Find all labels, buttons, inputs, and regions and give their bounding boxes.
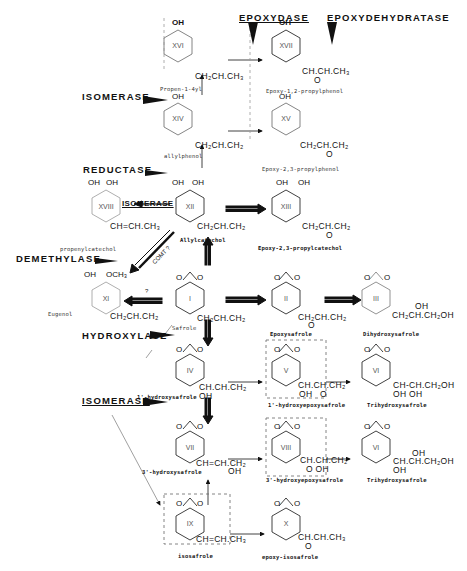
xviii-oh-2: OH [106,178,118,187]
v-oh: OH [299,390,312,399]
xvii-oh: OH [279,18,291,27]
vi-top-o-2: O [384,345,390,354]
ii-chain: CH₂CH.CH₂ [298,313,347,322]
xiii-oh-1: OH [276,178,288,187]
ix-chain: CH=CH.CH₃ [196,535,246,544]
xiv-oh: OH [172,92,184,101]
x-name: epoxy-isosafrole [262,554,318,560]
vii-name: 3'-hydroxysafrole [142,469,202,475]
xiv-chain: CH₂CH.CH₂ [195,141,244,150]
iii-chain: CH₂CH.CH₂OH [392,311,454,320]
xiv-name: allylphenol [164,153,203,159]
xviii-chain: CH=CH.CH₃ [110,222,160,231]
viii-o-1: O [274,422,280,431]
ii-name: Epoxysafrole [270,331,312,337]
v-o-2: O [294,345,300,354]
xi-label: XI [94,295,118,302]
enzyme-reductase: REDUCTASE [83,164,152,175]
vi-bottom-o-2: O [384,422,390,431]
xviii-oh-1: OH [88,178,100,187]
xii-chain: CH₂CH.CH₂ [197,222,246,231]
i-label: I [178,295,202,302]
v-epoxide: O [320,390,327,399]
xv-name: Epoxy-2,3-propylphenol [262,166,339,172]
v-o-1: O [274,345,280,354]
enzyme-isomerase-top: ISOMERASE [82,91,150,102]
xi-chain: CH₂CH.CH₂ [110,312,159,321]
xi-och3: OCH₃ [106,270,127,279]
xviii-label: XVIII [94,203,118,210]
v-name: 1'-hydroxyepoxysafrole [268,402,345,408]
viii-o-2: O [294,422,300,431]
xvi-oh: OH [172,18,184,27]
xiii-epoxide: O [326,231,333,240]
iii-label: III [364,295,388,302]
iii-o-1: O [364,273,370,282]
ix-o-2: O [197,499,203,508]
vii-o-1: O [176,422,182,431]
iii-name: Dihydroxysafrole [363,331,419,337]
xvii-chain: CH.CH.CH₃ [302,67,350,76]
i-name: Safrole [172,325,197,331]
i-chain: CH₂CH.CH₂ [197,314,246,323]
vii-oh: OH [228,467,241,476]
ii-o-2: O [294,273,300,282]
x-o-1: O [274,499,280,508]
xi-name: Eugenol [48,311,73,317]
xv-oh: OH [279,92,291,101]
xv-label: XV [274,115,298,122]
iv-oh: OH [199,392,212,401]
iii-o-2: O [384,273,390,282]
xii-label: XII [178,203,202,210]
enzyme-epoxydase: EPOXYDASE [239,12,309,23]
vi-bottom-oh: OH [393,466,406,475]
vi-top-oh: OH OH [393,390,422,399]
xi-oh: OH [84,270,96,279]
ix-label: IX [178,520,202,527]
enzyme-hydroxylase: HYDROXYLASE [82,330,168,341]
enzyme-demethylase: DEMETHYLASE [16,253,101,264]
xviii-name: propenylcatechol [60,246,116,252]
ii-o-1: O [274,273,280,282]
xvii-epoxide: O [314,76,321,85]
vi-bottom-name: Trihydroxysafrole [367,477,427,483]
viii-oh: O OH [306,465,329,474]
ii-epoxide: O [308,321,315,330]
xiii-oh-2: OH [298,178,310,187]
xiv-label: XIV [166,115,190,122]
vi-top-o-1: O [364,345,370,354]
viii-label: VIII [274,444,298,451]
x-o-2: O [294,499,300,508]
xii-oh-1: OH [172,178,184,187]
viii-name: 3'-hydroxyepoxysafrole [266,477,343,483]
x-epoxide: O [305,542,312,551]
i-o-1: O [176,273,182,282]
iv-o-2: O [197,345,203,354]
enzyme-isomerase-mid: ISOMERASE [122,199,174,208]
pathway-diagram-lines [0,0,467,571]
iv-label: IV [178,367,202,374]
vii-label: VII [178,444,202,451]
xvii-label: XVII [274,42,298,49]
ix-o-1: O [176,499,182,508]
xvi-chain: CH₂CH.CH₃ [195,72,244,81]
xii-oh-2: OH [192,178,204,187]
xv-epoxide: O [326,150,333,159]
x-label: X [274,520,298,527]
question-mark: ? [145,288,148,294]
ii-label: II [274,295,298,302]
iv-o-1: O [176,345,182,354]
xv-chain: CH₂CH.CH₂ [300,141,349,150]
ix-name: isosafrole [178,553,213,559]
vi-top-name: Trihydroxysafrole [367,402,427,408]
vii-o-2: O [197,422,203,431]
enzyme-epoxydehydratase: EPOXYDEHYDRATASE [327,12,450,23]
vi-bottom-label: VI [364,444,388,451]
xiii-label: XIII [274,203,298,210]
xvi-label: XVI [166,42,190,49]
xii-name: Allylcatechol [180,237,226,243]
xvii-name: Epoxy-1,2-propylphenol [266,88,343,94]
v-label: V [274,367,298,374]
i-o-2: O [197,273,203,282]
iv-name: 1'-hydroxysafrole [137,394,197,400]
